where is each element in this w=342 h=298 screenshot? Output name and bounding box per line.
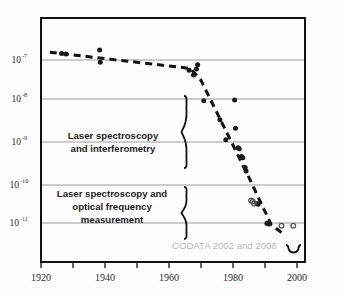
data-point	[195, 62, 200, 67]
data-point	[266, 221, 271, 226]
data-point	[98, 60, 103, 65]
data-point	[191, 72, 196, 77]
y-tick-exponent: -9	[22, 134, 27, 141]
annotation-upper-line-1: Laser spectroscopy	[68, 130, 159, 141]
x-tick-label-1940: 1940	[95, 272, 115, 283]
data-point	[244, 168, 249, 173]
data-point	[97, 48, 102, 53]
y-tick-exponent: -10	[20, 177, 28, 184]
codata-note: CODATA 2002 and 2006	[172, 240, 277, 251]
y-tick-mantissa: 10	[10, 218, 20, 228]
y-tick-mantissa: 10	[12, 137, 22, 147]
data-point	[201, 98, 206, 103]
y-tick-mantissa: 10	[12, 55, 22, 65]
annotation-lower-line-3: measurement	[81, 214, 144, 225]
data-point	[59, 51, 64, 56]
chart-background	[0, 0, 342, 298]
data-point	[63, 52, 68, 57]
x-tick-label-1960: 1960	[159, 272, 179, 283]
y-tick-exponent: -11	[20, 215, 28, 222]
annotation-lower-line-1: Laser spectroscopy and	[57, 188, 168, 199]
y-tick-exponent: -7	[22, 52, 27, 59]
data-point	[232, 97, 237, 102]
y-tick-exponent: -8	[22, 91, 27, 98]
x-tick-label-2000: 2000	[287, 272, 307, 283]
data-point	[240, 155, 245, 160]
annotation-upper-line-2: and interferometry	[71, 143, 156, 154]
x-tick-label-1920: 1920	[31, 272, 51, 283]
chart-canvas: 10 -7 10 -8 10 -9 10 -10 10 -11	[0, 0, 342, 298]
data-point	[217, 117, 222, 122]
y-tick-mantissa: 10	[12, 94, 22, 104]
data-point	[233, 126, 238, 131]
data-point	[237, 146, 242, 151]
figure-container: 10 -7 10 -8 10 -9 10 -10 10 -11	[0, 0, 342, 298]
data-point	[223, 137, 228, 142]
y-tick-mantissa: 10	[10, 180, 20, 190]
data-point	[187, 68, 192, 73]
annotation-lower-line-2: optical frequency	[72, 201, 152, 212]
x-tick-label-1980: 1980	[223, 272, 243, 283]
